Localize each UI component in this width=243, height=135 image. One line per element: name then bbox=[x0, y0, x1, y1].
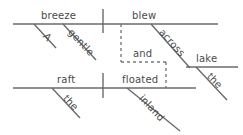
slant-group bbox=[34, 24, 227, 131]
slant-article-a bbox=[34, 24, 56, 48]
sentence-diagram: breezeblewAgentleacrosslaketheandraftflo… bbox=[0, 0, 243, 135]
slant-adverb-inland bbox=[127, 88, 180, 131]
slant-adjective-gentle bbox=[63, 24, 96, 60]
slant-preposition-across bbox=[151, 24, 190, 68]
slant-article-the-raft bbox=[52, 88, 80, 118]
baseline-group bbox=[13, 24, 238, 88]
diagram-canvas bbox=[0, 0, 243, 135]
slant-article-the-lake bbox=[196, 67, 227, 100]
